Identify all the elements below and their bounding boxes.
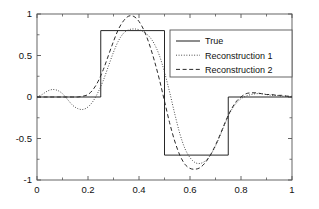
legend-label-1: Reconstruction 1 bbox=[205, 51, 273, 61]
y-tick-label-0: 1 bbox=[27, 8, 32, 19]
y-tick-label-3: -0.5 bbox=[16, 133, 32, 144]
chart-legend: TrueReconstruction 1Reconstruction 2 bbox=[170, 30, 292, 77]
legend-label-0: True bbox=[205, 36, 223, 46]
x-tick-label-0: 0 bbox=[34, 184, 39, 195]
y-tick-label-1: 0.5 bbox=[19, 50, 32, 61]
x-tick-label-4: 0.8 bbox=[234, 184, 247, 195]
x-tick-label-2: 0.4 bbox=[132, 184, 145, 195]
legend-label-2: Reconstruction 2 bbox=[205, 65, 273, 75]
y-tick-label-4: -1 bbox=[24, 174, 32, 185]
y-tick-label-2: 0 bbox=[27, 91, 32, 102]
x-tick-label-5: 1 bbox=[289, 184, 294, 195]
line-chart: 00.20.40.60.81 10.50-0.5-1 TrueReconstru… bbox=[0, 0, 319, 209]
x-tick-label-3: 0.6 bbox=[183, 184, 196, 195]
chart-figure: 00.20.40.60.81 10.50-0.5-1 TrueReconstru… bbox=[0, 0, 319, 209]
x-tick-label-1: 0.2 bbox=[81, 184, 94, 195]
